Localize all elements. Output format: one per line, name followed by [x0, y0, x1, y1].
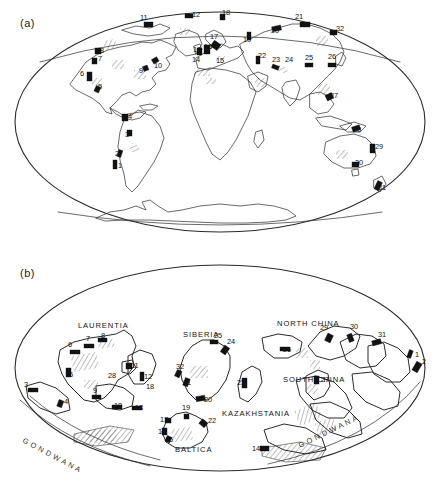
hatched-area [190, 366, 208, 378]
locality-number-7: 7 [98, 54, 102, 63]
coastline-caribbean [140, 104, 158, 110]
gondwana-hatched-wedge-right [262, 442, 326, 462]
hatched-area [171, 427, 193, 443]
locality-number-9: 9 [139, 66, 143, 75]
locality-number-17: 17 [210, 32, 218, 41]
locality-number-13: 13 [135, 403, 143, 412]
terrane-label-baltica: BALTICA [175, 445, 212, 454]
locality-number-27: 27 [330, 91, 338, 100]
locality-number-3: 3 [125, 130, 129, 139]
locality-number-23: 23 [272, 55, 280, 64]
locality-number-16: 16 [158, 427, 166, 436]
panel-b-map: LAURENTIASIBERIANORTH CHINASOUTH CHINAKA… [0, 250, 441, 483]
locality-number-26: 26 [328, 52, 336, 61]
locality-bar [92, 58, 97, 64]
hatched-area [206, 78, 216, 84]
terrane-label-north-china: NORTH CHINA [277, 319, 340, 328]
coastline-madagascar [254, 130, 264, 148]
locality-number-31: 31 [378, 183, 386, 192]
locality-number-32: 32 [176, 362, 184, 371]
hatched-area [255, 78, 265, 87]
locality-number-5: 5 [69, 370, 73, 379]
locality-bar [300, 22, 310, 27]
panel-a-map: 1234567891011121314151617181920212223242… [0, 0, 441, 250]
locality-number-15: 15 [165, 435, 173, 444]
locality-bar [92, 395, 101, 399]
hatched-area [129, 143, 141, 154]
hatched-area [180, 28, 190, 35]
locality-number-10: 10 [154, 61, 162, 70]
locality-number-20: 20 [204, 395, 212, 404]
locality-number-29: 29 [320, 323, 328, 332]
locality-number-10: 10 [114, 401, 122, 410]
locality-number-21: 21 [183, 378, 191, 387]
terrane-east-collage-6 [352, 372, 400, 410]
locality-bar [260, 446, 269, 451]
locality-number-5: 5 [98, 82, 102, 91]
terrane-label-south-china: SOUTH CHINA [283, 375, 345, 384]
locality-number-20: 20 [271, 26, 279, 35]
locality-number-labels-a: 1234567891011121314151617181920212223242… [80, 8, 386, 192]
figure-container: (a) [0, 0, 441, 483]
locality-number-22: 22 [208, 416, 216, 425]
locality-number-7: 7 [86, 334, 90, 343]
locality-number-9: 9 [93, 386, 97, 395]
hatched-area [86, 430, 116, 442]
locality-number-14: 14 [192, 55, 200, 64]
coastline-africa [190, 68, 256, 160]
coastline-north-america [70, 40, 176, 114]
locality-number-19: 19 [243, 35, 251, 44]
locality-number-25: 25 [305, 53, 313, 62]
locality-bar [184, 414, 189, 419]
panel-b: (b) [0, 250, 441, 483]
locality-number-28: 28 [108, 371, 116, 380]
coastline-south-america [118, 112, 164, 192]
locality-number-1: 1 [118, 161, 122, 170]
terrane-east-collage-3 [368, 342, 410, 382]
locality-number-11: 11 [131, 361, 139, 370]
locality-number-8: 8 [100, 46, 104, 55]
locality-bar [210, 340, 218, 344]
hatched-area [296, 348, 308, 358]
locality-number-24: 24 [227, 337, 235, 346]
coastline-tasmania [352, 169, 359, 176]
locality-bar [113, 160, 117, 169]
coastline-indonesia [316, 116, 352, 130]
locality-number-29: 29 [375, 142, 383, 151]
locality-number-30: 30 [350, 322, 358, 331]
locality-number-4: 4 [64, 397, 68, 406]
locality-bar [144, 22, 153, 27]
locality-number-25: 25 [214, 331, 222, 340]
locality-number-18: 18 [222, 8, 230, 17]
locality-number-12: 12 [144, 372, 152, 381]
locality-bar [412, 361, 422, 373]
locality-bar [328, 63, 336, 67]
locality-number-6: 6 [80, 69, 84, 78]
locality-number-23: 23 [237, 378, 245, 387]
locality-number-15: 15 [216, 56, 224, 65]
locality-number-3: 3 [24, 380, 28, 389]
locality-number-17: 17 [160, 415, 168, 424]
locality-bar [70, 350, 80, 354]
locality-number-2: 2 [115, 149, 119, 158]
locality-number-26: 26 [283, 345, 291, 354]
locality-number-1: 1 [415, 350, 419, 359]
gondwana-label-1: G O N D W A N A [21, 436, 83, 474]
locality-bar [305, 63, 313, 67]
hatched-area [71, 352, 99, 372]
hatched-area [194, 68, 210, 76]
locality-bar [28, 388, 38, 392]
hatched-area [316, 36, 328, 46]
coastline-australia [324, 134, 376, 168]
locality-number-31: 31 [378, 330, 386, 339]
hatched-area [336, 150, 348, 159]
panel-a: (a) [0, 0, 441, 250]
terrane-east-collage-1 [308, 326, 360, 360]
locality-number-30: 30 [355, 158, 363, 167]
locality-number-2: 2 [422, 357, 426, 366]
locality-bar [407, 350, 413, 359]
locality-number-12: 12 [192, 10, 200, 19]
locality-bar [84, 344, 94, 348]
locality-number-21: 21 [295, 12, 303, 21]
hatched-area [306, 384, 318, 394]
